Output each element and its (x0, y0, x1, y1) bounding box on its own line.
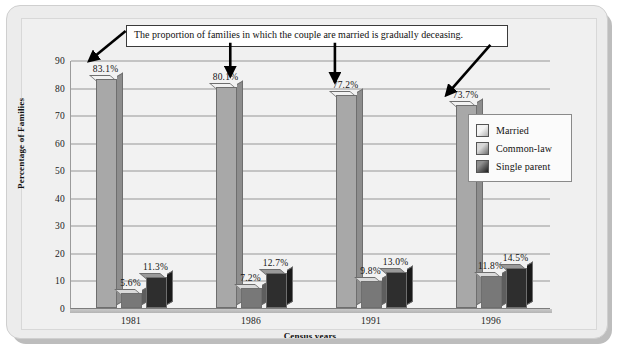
y-axis-tick: 40 (55, 194, 65, 204)
bar-face-side (237, 81, 243, 305)
legend-swatch-common-law-icon (476, 142, 489, 155)
y-axis-tick: 0 (60, 304, 65, 314)
bar-face-side (287, 267, 293, 305)
bar-value-label: 14.5% (503, 253, 529, 263)
legend-item-married: Married (476, 124, 565, 137)
legend-item-single-parent: Single parent (476, 160, 565, 173)
chart-legend: Married Common-law Single parent (468, 114, 572, 182)
bar-1986-single-parent: 12.7% (266, 273, 287, 308)
y-axis-title: Percentage of Families (16, 98, 26, 189)
chart-screenshot: 010203040506070809083.1%5.6%11.3%198180.… (0, 0, 625, 358)
bar-value-label: 13.0% (383, 257, 409, 267)
y-axis-tick: 10 (55, 276, 65, 286)
bar-face-front (216, 87, 237, 308)
bar-value-label: 73.7% (453, 90, 479, 100)
bar-face-front (506, 268, 527, 308)
legend-swatch-married-icon (476, 124, 489, 137)
bar-1986-common-law: 7.2% (241, 288, 262, 308)
bar-face-front (361, 281, 382, 308)
gridline (71, 60, 550, 62)
bar-value-label: 11.3% (143, 262, 168, 272)
x-axis-tick-1991: 1991 (361, 316, 381, 326)
chart-canvas: 010203040506070809083.1%5.6%11.3%198180.… (21, 18, 597, 330)
x-axis-tick-1981: 1981 (121, 316, 141, 326)
arrow-1981 (92, 31, 126, 59)
bar-face-front (241, 288, 262, 308)
legend-item-common-law: Common-law (476, 142, 565, 155)
y-axis-tick: 60 (55, 139, 65, 149)
x-axis-title: Census years (70, 331, 550, 339)
chart-card: 010203040506070809083.1%5.6%11.3%198180.… (6, 5, 608, 339)
bar-1981-married: 83.1% (96, 79, 117, 308)
bar-face-side (407, 266, 413, 305)
y-axis-tick: 70 (55, 111, 65, 121)
bar-1986-married: 80.1% (216, 87, 237, 308)
bar-value-label: 11.8% (478, 261, 503, 271)
bar-1996-single-parent: 14.5% (506, 268, 527, 308)
legend-label-single-parent: Single parent (496, 161, 550, 172)
bar-value-label: 83.1% (93, 64, 119, 74)
bar-value-label: 80.1% (213, 72, 239, 82)
bar-face-front (266, 273, 287, 308)
bar-face-side (117, 73, 123, 305)
bar-face-front (386, 272, 407, 308)
y-axis-tick: 90 (55, 56, 65, 66)
bar-face-side (527, 262, 533, 305)
bar-face-front (481, 276, 502, 309)
bar-value-label: 5.6% (120, 278, 141, 288)
y-axis-tick: 80 (55, 84, 65, 94)
bar-face-front (121, 293, 142, 308)
bar-1996-common-law: 11.8% (481, 276, 502, 309)
bar-face-front (146, 277, 167, 308)
legend-label-married: Married (496, 125, 529, 136)
bar-value-label: 7.2% (240, 273, 261, 283)
bar-1981-single-parent: 11.3% (146, 277, 167, 308)
plot-area: 010203040506070809083.1%5.6%11.3%198180.… (70, 61, 550, 309)
y-axis-tick: 30 (55, 221, 65, 231)
x-axis-tick-1986: 1986 (241, 316, 261, 326)
x-axis-tick-1996: 1996 (481, 316, 501, 326)
bar-value-label: 77.2% (333, 80, 359, 90)
bar-1991-single-parent: 13.0% (386, 272, 407, 308)
bar-1981-common-law: 5.6% (121, 293, 142, 308)
plot-floor (70, 309, 552, 313)
bar-face-side (167, 270, 173, 305)
legend-label-common-law: Common-law (496, 143, 552, 154)
y-axis-tick: 20 (55, 249, 65, 259)
legend-swatch-single-parent-icon (476, 160, 489, 173)
bar-1991-common-law: 9.8% (361, 281, 382, 308)
y-axis-tick: 50 (55, 166, 65, 176)
bar-face-front (96, 79, 117, 308)
annotation-callout: The proportion of families in which the … (126, 25, 508, 47)
bar-value-label: 12.7% (263, 258, 289, 268)
